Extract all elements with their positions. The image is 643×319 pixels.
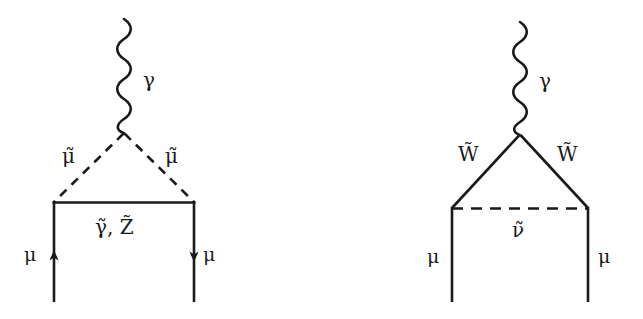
- label-muon-left-right-diagram: μ: [427, 245, 439, 267]
- wino-propagator-right: [521, 135, 589, 208]
- label-wino-right: W̃: [557, 142, 578, 166]
- diagram-wino-sneutrino-loop: γ W̃ W̃ ν̃ μ μ: [427, 22, 610, 302]
- smuon-propagator-right: [125, 134, 195, 203]
- label-muon-left: μ: [24, 243, 36, 265]
- label-smuon-right: μ̃: [165, 144, 178, 168]
- label-smuon-left: μ̃: [62, 144, 75, 168]
- label-neutralino: γ̃, Z̃: [95, 215, 134, 239]
- feynman-diagram-group: γ μ̃ μ̃ γ̃, Z̃ μ μ γ W̃ W̃: [0, 0, 643, 319]
- label-photon-right: γ: [539, 69, 551, 93]
- photon-wavy-line-left: [117, 19, 131, 133]
- photon-wavy-line-right: [513, 22, 527, 135]
- diagram-smuon-neutralino-loop: γ μ̃ μ̃ γ̃, Z̃ μ μ: [24, 19, 215, 302]
- label-muon-right-right-diagram: μ: [598, 245, 610, 267]
- label-wino-left: W̃: [458, 142, 479, 166]
- label-muon-right: μ: [203, 243, 215, 265]
- label-photon-left: γ: [143, 68, 155, 92]
- label-sneutrino: ν̃: [512, 218, 524, 242]
- feynman-figure-canvas: γ μ̃ μ̃ γ̃, Z̃ μ μ γ W̃ W̃: [0, 0, 643, 319]
